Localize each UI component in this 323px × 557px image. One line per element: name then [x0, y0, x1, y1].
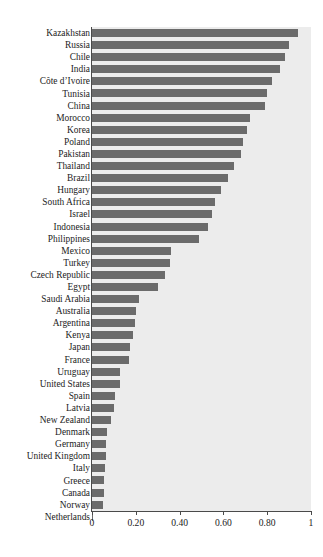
category-label: Poland: [4, 137, 90, 147]
category-label: Morocco: [4, 113, 90, 123]
bar: [92, 416, 111, 424]
bar-row: Latvia: [0, 402, 323, 414]
bar: [92, 368, 120, 376]
category-label: Egypt: [4, 282, 90, 292]
bar-row: Thailand: [0, 160, 323, 172]
clipped-header-text: [0, 0, 323, 8]
category-label: Thailand: [4, 161, 90, 171]
category-label: South Africa: [4, 197, 90, 207]
category-label: Turkey: [4, 258, 90, 268]
bar-row: India: [0, 63, 323, 75]
bar: [92, 150, 241, 158]
bar: [92, 476, 104, 484]
bar-row: Kenya: [0, 329, 323, 341]
category-label: United Kingdom: [4, 451, 90, 461]
bar: [92, 114, 250, 122]
category-label: Australia: [4, 306, 90, 316]
category-label: Uruguay: [4, 367, 90, 377]
category-label: Tunisia: [4, 89, 90, 99]
bar-row: China: [0, 100, 323, 112]
bar: [92, 29, 298, 37]
bar: [92, 452, 106, 460]
bar-row: Egypt: [0, 281, 323, 293]
category-label: Mexico: [4, 246, 90, 256]
bar-row: Indonesia: [0, 221, 323, 233]
bar: [92, 319, 135, 327]
bar-row: Kazakhstan: [0, 27, 323, 39]
category-label: Netherlands: [4, 512, 90, 522]
bar: [92, 77, 272, 85]
category-label: Canada: [4, 488, 90, 498]
bar-row: Korea: [0, 124, 323, 136]
category-label: China: [4, 101, 90, 111]
category-label: United States: [4, 379, 90, 389]
bar-row: Tunisia: [0, 87, 323, 99]
category-label: Indonesia: [4, 222, 90, 232]
bar-row: Mexico: [0, 245, 323, 257]
bar: [92, 186, 221, 194]
bar: [92, 380, 120, 388]
bar-row: Japan: [0, 341, 323, 353]
bar: [92, 404, 114, 412]
category-label: Pakistan: [4, 149, 90, 159]
category-label: Korea: [4, 125, 90, 135]
bar: [92, 440, 106, 448]
category-label: Japan: [4, 342, 90, 352]
x-tick-label: 0.40: [171, 517, 188, 529]
bar-row: France: [0, 354, 323, 366]
category-label: Hungary: [4, 185, 90, 195]
bar-row: Uruguay: [0, 366, 323, 378]
bar: [92, 138, 243, 146]
category-label: Saudi Arabia: [4, 294, 90, 304]
category-label: New Zealand: [4, 415, 90, 425]
bar: [92, 247, 171, 255]
x-tick-mark: [136, 511, 137, 515]
bar: [92, 198, 215, 206]
x-tick-label: 1: [309, 517, 314, 529]
category-label: Latvia: [4, 403, 90, 413]
bar: [92, 392, 115, 400]
bar-row: Norway: [0, 499, 323, 511]
bar: [92, 283, 158, 291]
bar-row: Greece: [0, 474, 323, 486]
bar: [92, 356, 129, 364]
x-tick-mark: [267, 511, 268, 515]
bar-row: Hungary: [0, 184, 323, 196]
x-tick-label: 0.20: [127, 517, 144, 529]
bar-row: Poland: [0, 136, 323, 148]
bar: [92, 53, 285, 61]
category-label: Germany: [4, 439, 90, 449]
bar-row: Denmark: [0, 426, 323, 438]
x-tick-label: 0.60: [215, 517, 232, 529]
bar: [92, 343, 130, 351]
category-label: India: [4, 64, 90, 74]
bar-rows: KazakhstanRussiaChileIndiaCôte d’IvoireT…: [0, 27, 323, 511]
bar: [92, 489, 104, 497]
bar: [92, 89, 267, 97]
x-tick-mark: [92, 511, 93, 515]
bar: [92, 464, 105, 472]
bar-row: Canada: [0, 487, 323, 499]
bar-row: Turkey: [0, 257, 323, 269]
category-label: Israel: [4, 209, 90, 219]
bar-row: Germany: [0, 438, 323, 450]
bar: [92, 41, 289, 49]
bar-row: Australia: [0, 305, 323, 317]
bar-row: Czech Republic: [0, 269, 323, 281]
x-tick-mark: [180, 511, 181, 515]
category-label: Italy: [4, 463, 90, 473]
bar: [92, 307, 136, 315]
category-label: Philippines: [4, 234, 90, 244]
x-tick-mark: [311, 511, 312, 515]
category-label: Brazil: [4, 173, 90, 183]
bar: [92, 174, 228, 182]
bar: [92, 235, 199, 243]
category-label: Greece: [4, 476, 90, 486]
bar-row: Morocco: [0, 112, 323, 124]
bar-row: South Africa: [0, 196, 323, 208]
x-tick-label: 0: [90, 517, 95, 529]
bar-row: United States: [0, 378, 323, 390]
bar-row: Philippines: [0, 233, 323, 245]
bar-row: Argentina: [0, 317, 323, 329]
category-label: Kazakhstan: [4, 28, 90, 38]
